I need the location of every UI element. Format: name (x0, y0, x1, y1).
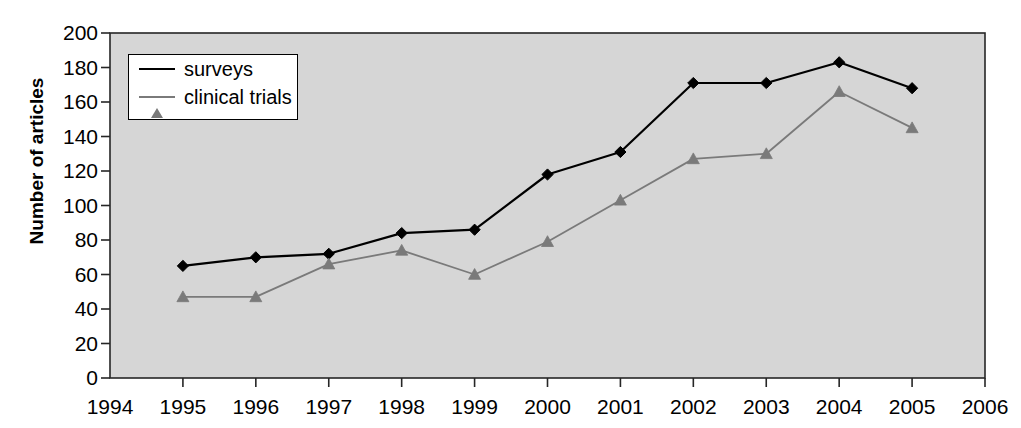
legend-swatch-clinical-trials (139, 90, 175, 104)
legend-item-clinical-trials: clinical trials (129, 83, 297, 111)
x-axis-tick-label: 2000 (508, 396, 588, 417)
x-axis-tick-label: 1997 (289, 396, 369, 417)
legend-swatch-surveys (139, 62, 175, 76)
x-axis-tick-label: 2005 (872, 396, 952, 417)
legend-label-surveys: surveys (184, 58, 253, 81)
x-axis-tick-label: 2002 (653, 396, 733, 417)
x-axis-tick-label: 1996 (216, 396, 296, 417)
x-axis-tick-label: 1995 (143, 396, 223, 417)
line-chart: Number of articles 020406080100120140160… (0, 0, 1021, 428)
x-axis-tick-label: 1999 (435, 396, 515, 417)
x-axis-tick-label: 2003 (726, 396, 806, 417)
x-axis-tick-label: 2001 (580, 396, 660, 417)
legend-item-surveys: surveys (129, 55, 297, 83)
x-axis-tick-label: 2004 (799, 396, 879, 417)
legend-label-clinical-trials: clinical trials (184, 86, 292, 109)
triangle-marker-icon (151, 91, 163, 109)
x-axis-tick-label: 2006 (945, 396, 1021, 417)
x-axis-tick-label: 1998 (362, 396, 442, 417)
chart-legend: surveys clinical trials (128, 54, 298, 120)
x-axis-tick-label: 1994 (70, 396, 150, 417)
